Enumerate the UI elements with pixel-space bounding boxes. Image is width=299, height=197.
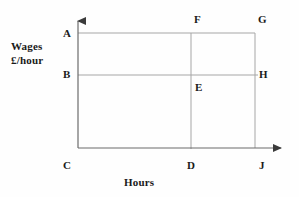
point-label-j: J [259,159,265,172]
point-label-a: A [63,27,71,40]
point-label-f: F [194,13,201,26]
point-label-g: G [258,13,267,26]
y-axis-title-line2: £/hour [11,54,43,68]
point-label-h: H [259,68,268,81]
wages-hours-diagram: Wages £/hour Hours A B C D E F G H J [0,0,299,197]
diagram-canvas [0,0,299,197]
point-label-b: B [63,68,71,81]
y-axis-title-line1: Wages [11,40,43,54]
point-label-d: D [187,159,195,172]
point-label-c: C [63,159,71,172]
y-axis-title: Wages £/hour [11,40,43,68]
point-label-e: E [195,81,203,94]
x-axis-title: Hours [124,176,154,190]
